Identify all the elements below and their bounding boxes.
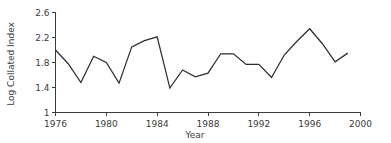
chart-figure: 1976198019841988199219962000 11.41.82.22… [0, 0, 391, 143]
y-tick-label: 1 [44, 108, 50, 118]
chart-tick-marks [52, 13, 361, 117]
y-axis-tick-labels: 11.41.82.22.6 [35, 8, 50, 118]
x-axis-tick-labels: 1976198019841988199219962000 [44, 119, 372, 129]
y-axis-title: Log Collated Index [6, 22, 16, 106]
x-tick-label: 1988 [197, 119, 220, 129]
x-tick-label: 2000 [349, 119, 372, 129]
y-tick-label: 2.2 [35, 33, 49, 43]
y-tick-label: 1.4 [35, 83, 50, 93]
y-tick-label: 2.6 [35, 8, 50, 18]
x-tick-label: 1980 [95, 119, 118, 129]
x-tick-label: 1992 [247, 119, 270, 129]
x-axis-title: Year [184, 130, 204, 140]
series-log-collated-index [56, 29, 348, 88]
y-tick-label: 1.8 [35, 58, 50, 68]
chart-axes [56, 13, 361, 113]
axis-spines [56, 13, 361, 113]
x-tick-label: 1976 [44, 119, 67, 129]
data-series-line [56, 29, 348, 88]
x-tick-label: 1984 [146, 119, 169, 129]
line-chart-plot: 1976198019841988199219962000 11.41.82.22… [0, 0, 391, 143]
x-tick-label: 1996 [298, 119, 321, 129]
